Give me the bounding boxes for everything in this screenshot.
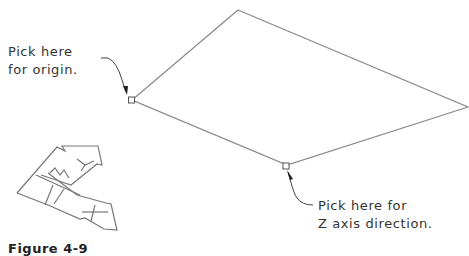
origin-pick-point[interactable] — [129, 97, 135, 103]
figure-caption: Figure 4-9 — [8, 241, 88, 256]
origin-label-line1: Pick here — [8, 44, 73, 59]
origin-leader-arrow — [101, 58, 126, 92]
zaxis-pick-point[interactable] — [283, 163, 289, 169]
zaxis-arrowhead-icon — [287, 170, 293, 180]
zaxis-label-line1: Pick here for — [318, 198, 407, 213]
zaxis-label-line2: Z axis direction. — [318, 216, 433, 231]
zaxis-leader-arrow — [288, 172, 313, 205]
origin-arrowhead-icon — [123, 86, 128, 95]
ucs-icon — [17, 146, 117, 230]
origin-label-line2: for origin. — [8, 62, 78, 77]
plane-outline — [132, 10, 468, 165]
